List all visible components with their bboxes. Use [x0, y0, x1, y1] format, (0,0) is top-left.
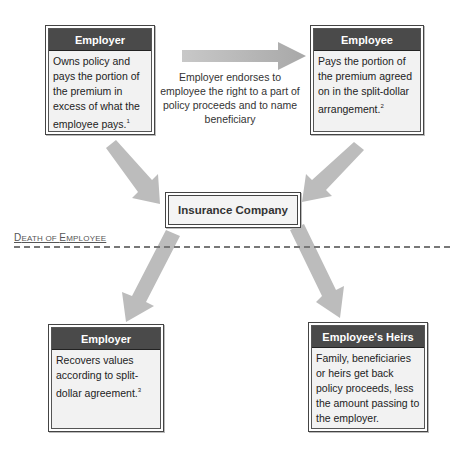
death-of-employee-label: DEATH OF EMPLOYEE: [14, 232, 106, 243]
down-right-arrow-icon: [290, 224, 344, 318]
employee-heirs-title: Employee's Heirs: [312, 326, 424, 348]
employee-heirs-text: Family, beneficiaries or heirs get back …: [312, 348, 424, 429]
employer-bottom-text: Recovers values according to split-dolla…: [52, 350, 160, 404]
down-left-arrow-icon: [302, 142, 364, 202]
employer-top-title: Employer: [49, 29, 151, 51]
insurance-company-label: Insurance Company: [168, 195, 298, 225]
employee-heirs-box: Employee's Heirs Family, beneficiaries o…: [308, 322, 428, 432]
employer-bottom-box: Employer Recovers values according to sp…: [48, 324, 164, 432]
employee-top-box: Employee Pays the portion of the premium…: [310, 25, 424, 135]
down-right-arrow-icon: [106, 140, 160, 204]
employee-top-text: Pays the portion of the premium agreed o…: [314, 51, 420, 120]
employer-top-box: Employer Owns policy and pays the portio…: [45, 25, 155, 135]
employer-top-text: Owns policy and pays the portion of the …: [49, 51, 151, 135]
insurance-company-box: Insurance Company: [165, 192, 301, 228]
right-arrow-icon: [182, 42, 306, 70]
employee-top-title: Employee: [314, 29, 420, 51]
employer-bottom-title: Employer: [52, 328, 160, 350]
down-left-arrow-icon: [122, 230, 180, 322]
endorsement-label: Employer endorses to employee the right …: [160, 70, 300, 126]
death-divider-line: [14, 246, 450, 248]
